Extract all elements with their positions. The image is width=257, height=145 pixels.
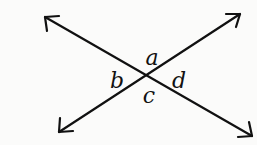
- angle-label-d: d: [172, 68, 186, 93]
- angle-label-c: c: [143, 83, 155, 108]
- angle-label-a: a: [145, 45, 158, 70]
- line-1: [45, 17, 252, 136]
- intersecting-lines-diagram: a b c d: [0, 0, 257, 145]
- angle-label-b: b: [110, 68, 124, 93]
